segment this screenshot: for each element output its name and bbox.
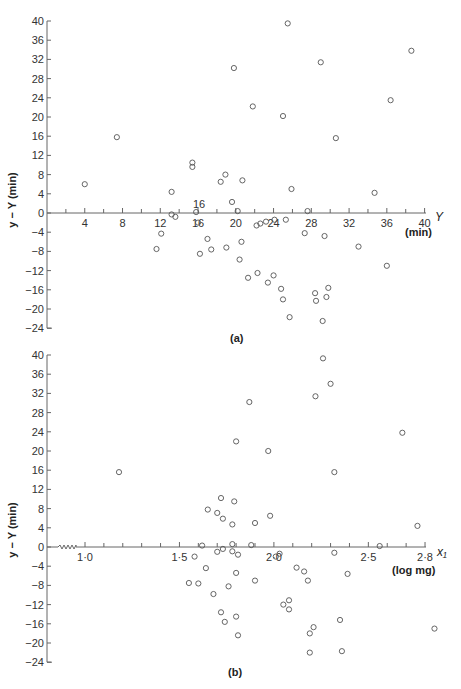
data-point <box>229 199 234 204</box>
data-point <box>114 135 119 140</box>
x-tick-label: 16 <box>192 217 204 229</box>
y-tick-label: 36 <box>32 34 44 46</box>
data-point <box>286 607 291 612</box>
data-point <box>235 633 240 638</box>
data-point <box>281 602 286 607</box>
data-point <box>307 631 312 636</box>
x-axis-a: 481216202428323640 <box>47 208 431 229</box>
y-tick-label: 24 <box>32 426 44 438</box>
y-tick-label: 16 <box>32 464 44 476</box>
y-tick-label: 12 <box>32 483 44 495</box>
data-point <box>247 399 252 404</box>
y-tick-label: 12 <box>32 149 44 161</box>
data-point <box>230 542 235 547</box>
panel-label-a: (a) <box>230 332 244 344</box>
y-tick-label: −4 <box>31 560 44 572</box>
data-point <box>196 581 201 586</box>
data-point <box>215 549 220 554</box>
data-point <box>332 550 337 555</box>
data-point <box>345 571 350 576</box>
data-point <box>231 65 236 70</box>
scatter-panel-a: 4036322824201612840−4−8−12−16−20−24 4812… <box>6 15 444 344</box>
data-point <box>197 251 202 256</box>
y-tick-label: −8 <box>31 579 44 591</box>
y-tick-label: 4 <box>38 188 44 200</box>
data-point <box>169 189 174 194</box>
data-point <box>222 619 227 624</box>
data-point <box>313 298 318 303</box>
data-point <box>432 626 437 631</box>
y-tick-label: 8 <box>38 169 44 181</box>
data-point <box>409 48 414 53</box>
data-point <box>285 21 290 26</box>
data-point <box>302 231 307 236</box>
data-point <box>384 263 389 268</box>
data-point <box>415 523 420 528</box>
data-point <box>322 233 327 238</box>
y-tick-label: −4 <box>31 226 44 238</box>
data-points-b <box>116 356 437 655</box>
data-point <box>326 285 331 290</box>
x-tick-label: 1·5 <box>171 551 187 563</box>
data-point <box>311 625 316 630</box>
y-tick-label: −12 <box>25 599 44 611</box>
x-tick-label: 20 <box>230 217 242 229</box>
x-tick-label: 4 <box>82 217 88 229</box>
y-tick-label: 0 <box>38 207 44 219</box>
data-point <box>286 598 291 603</box>
y-tick-label: 16 <box>32 130 44 142</box>
data-point <box>218 495 223 500</box>
data-point <box>220 516 225 521</box>
data-point <box>313 394 318 399</box>
data-point <box>356 244 361 249</box>
data-point <box>302 569 307 574</box>
data-point <box>230 522 235 527</box>
x-axis-var-a: Y <box>435 210 444 224</box>
data-point <box>271 273 276 278</box>
data-point <box>230 549 235 554</box>
y-tick-label: 20 <box>32 111 44 123</box>
data-point <box>333 136 338 141</box>
data-point <box>223 172 228 177</box>
data-point <box>265 280 270 285</box>
data-point <box>237 257 242 262</box>
figure: 4036322824201612840−4−8−12−16−20−24 4812… <box>0 0 461 689</box>
data-point <box>205 236 210 241</box>
data-points-a <box>82 21 414 324</box>
data-point <box>209 247 214 252</box>
data-point <box>234 570 239 575</box>
y-tick-label: −12 <box>25 265 44 277</box>
y-tick-label: 24 <box>32 92 44 104</box>
data-point <box>287 315 292 320</box>
y-tick-label: −16 <box>25 618 44 630</box>
data-point <box>234 439 239 444</box>
data-point <box>372 190 377 195</box>
data-point <box>211 591 216 596</box>
x-tick-label: 2·5 <box>360 551 376 563</box>
y-axis-b: 4036322824201612840−4−8−12−16−20−24 <box>25 349 52 668</box>
data-point <box>218 610 223 615</box>
data-point <box>332 470 337 475</box>
y-tick-label: 28 <box>32 73 44 85</box>
data-point <box>337 617 342 622</box>
annotation-16: 16 <box>193 198 205 210</box>
data-point <box>226 584 231 589</box>
data-point <box>320 356 325 361</box>
data-point <box>255 270 260 275</box>
y-tick-label: 4 <box>38 522 44 534</box>
x-tick-label: 28 <box>305 217 317 229</box>
y-tick-label: −20 <box>25 637 44 649</box>
x-tick-label: 12 <box>154 217 166 229</box>
y-tick-label: 36 <box>32 368 44 380</box>
data-point <box>215 510 220 515</box>
x-tick-label: 2·0 <box>266 551 282 563</box>
x-tick-label: 8 <box>119 217 125 229</box>
data-point <box>82 182 87 187</box>
data-point <box>283 217 288 222</box>
x-tick-label: 32 <box>343 217 355 229</box>
data-point <box>250 104 255 109</box>
y-tick-label: 32 <box>32 387 44 399</box>
data-point <box>252 520 257 525</box>
y-axis-a: 4036322824201612840−4−8−12−16−20−24 <box>25 15 52 334</box>
y-axis-title-b: y − Y (min) <box>6 502 18 558</box>
